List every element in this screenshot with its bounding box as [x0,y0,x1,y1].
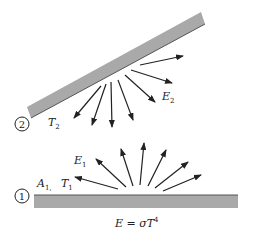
surface-2-plate [27,12,205,118]
surface-1-emission-label: E1 [73,154,87,169]
surface-1-area-label: A1, [36,177,52,192]
stefan-boltzmann-equation: E = σT4 [114,216,159,230]
surface-2-emission-label: E2 [161,90,175,105]
surface-1-temperature-label: T1 [61,177,73,192]
surface-1-emission-arrows [75,143,201,191]
surface-1-number-badge: 1 [15,189,29,203]
surface-2-temperature-label: T2 [48,116,60,131]
radiation-diagram: 2 T2 E2 1 A1, T1 E1 E = σT4 [0,0,253,233]
svg-text:2: 2 [19,119,25,130]
surface-2-number-badge: 2 [15,117,29,131]
svg-text:1: 1 [19,191,25,202]
surface-1-plate [34,195,238,208]
